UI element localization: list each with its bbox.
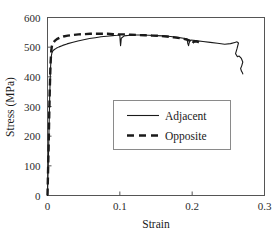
legend-label-opposite: Opposite xyxy=(165,130,207,143)
legend-label-adjacent: Adjacent xyxy=(165,110,207,123)
x-tick-label: 0.2 xyxy=(185,200,199,212)
y-tick-label: 100 xyxy=(24,160,41,172)
legend: Adjacent Opposite xyxy=(114,101,231,150)
legend-box xyxy=(114,101,231,150)
y-tick-label: 0 xyxy=(35,190,41,202)
y-tick-label: 200 xyxy=(24,130,41,142)
x-tick-label: 0.3 xyxy=(258,200,272,212)
stress-strain-chart: 0100200300400500600 00.10.20.3 Adjacent … xyxy=(0,0,280,241)
x-axis-title: Strain xyxy=(142,218,170,230)
y-tick-label: 300 xyxy=(24,101,41,113)
y-tick-label: 500 xyxy=(24,41,41,53)
x-tick-label: 0 xyxy=(45,200,51,212)
chart-svg: 0100200300400500600 00.10.20.3 Adjacent … xyxy=(0,0,280,241)
y-axis-title: Stress (MPa) xyxy=(4,77,17,137)
x-tick-label: 0.1 xyxy=(113,200,127,212)
y-tick-label: 600 xyxy=(24,12,41,24)
y-tick-label: 400 xyxy=(24,71,41,83)
